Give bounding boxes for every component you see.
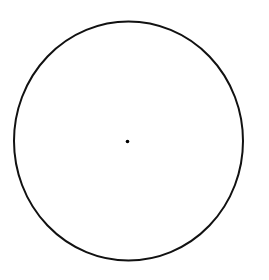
center-point <box>126 140 130 144</box>
diagram-canvas <box>0 0 269 280</box>
diagram-svg <box>0 0 269 280</box>
